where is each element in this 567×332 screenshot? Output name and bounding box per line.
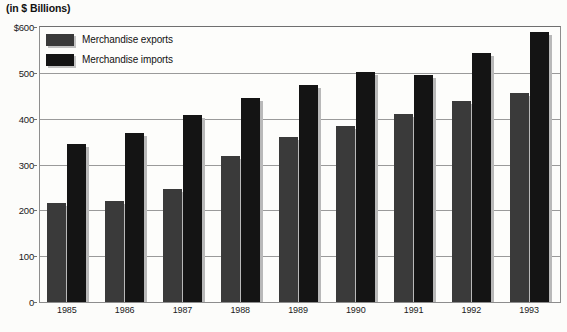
x-axis-tick-label: 1985 <box>57 305 77 315</box>
y-axis-tick-label: 200 <box>19 205 34 216</box>
bar <box>47 203 66 302</box>
y-axis-tick-label: 500 <box>19 67 34 78</box>
bar <box>105 201 124 302</box>
y-axis-tick-label: 300 <box>19 159 34 170</box>
y-axis: $6005004003002001000 <box>0 26 37 303</box>
x-axis-tick-label: 1989 <box>288 305 308 315</box>
x-axis-tick-label: 1991 <box>404 305 424 315</box>
chart-title: (in $ Billions) <box>6 2 70 14</box>
y-axis-tick-mark <box>33 119 37 120</box>
x-axis-tick-label: 1988 <box>230 305 250 315</box>
legend-item: Merchandise exports <box>46 31 206 48</box>
bar <box>299 85 318 302</box>
legend-item-label: Merchandise exports <box>82 34 173 45</box>
x-axis-tick-label: 1986 <box>115 305 135 315</box>
x-axis-tick-label: 1987 <box>173 305 193 315</box>
y-axis-tick-label: 100 <box>19 251 34 262</box>
chart-legend: Merchandise exportsMerchandise imports <box>46 31 206 71</box>
bar <box>125 133 144 302</box>
bar <box>183 115 202 302</box>
legend-swatch-icon <box>46 54 74 66</box>
y-axis-tick-mark <box>33 165 37 166</box>
bar <box>279 137 298 302</box>
bar <box>510 93 529 302</box>
bar <box>67 144 86 302</box>
legend-swatch-icon <box>46 34 74 46</box>
y-axis-tick-label: $600 <box>14 22 34 33</box>
bar <box>530 32 549 302</box>
legend-item: Merchandise imports <box>46 51 206 68</box>
x-axis-tick-label: 1993 <box>519 305 539 315</box>
y-axis-tick-mark <box>33 27 37 28</box>
bar <box>472 53 491 302</box>
chart-page: (in $ Billions) $6005004003002001000 198… <box>0 0 567 332</box>
y-axis-tick-label: 400 <box>19 113 34 124</box>
bar <box>241 98 260 302</box>
y-axis-tick-mark <box>33 256 37 257</box>
bar <box>452 101 471 302</box>
bar <box>163 189 182 302</box>
x-axis-tick-label: 1992 <box>462 305 482 315</box>
y-axis-tick-mark <box>33 302 37 303</box>
bar <box>356 72 375 302</box>
y-axis-tick-mark <box>33 73 37 74</box>
bar <box>394 114 413 302</box>
y-axis-tick-mark <box>33 210 37 211</box>
legend-item-label: Merchandise imports <box>82 54 173 65</box>
x-axis: 198519861987198819891990199119921993 <box>39 305 561 325</box>
x-axis-tick-label: 1990 <box>346 305 366 315</box>
bar <box>221 156 240 302</box>
bar <box>336 126 355 302</box>
bar <box>414 75 433 302</box>
